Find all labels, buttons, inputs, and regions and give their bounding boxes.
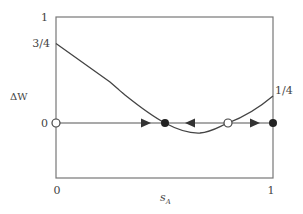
unstable-equilibrium-icon xyxy=(224,119,232,127)
y-tick-0: 0 xyxy=(41,117,48,130)
y-tick-3-4: 3/4 xyxy=(32,37,50,50)
x-tick-0: 0 xyxy=(54,184,61,197)
stable-equilibrium-icon xyxy=(269,119,277,127)
arrow-left-icon xyxy=(185,119,195,128)
stable-equilibrium-icon xyxy=(161,119,169,127)
unstable-equilibrium-icon xyxy=(52,119,60,127)
arrow-right-icon xyxy=(250,119,260,128)
chart: 1 3/4 0 ΔW 0 1 sA 1/4 xyxy=(0,0,303,214)
y-axis-title: ΔW xyxy=(10,91,28,102)
x-axis-title: sA xyxy=(160,191,171,206)
arrow-right-icon xyxy=(141,119,151,128)
y-tick-1: 1 xyxy=(41,11,48,24)
x-tick-1: 1 xyxy=(268,184,275,197)
plot-frame xyxy=(56,17,273,178)
annotation-1-4: 1/4 xyxy=(275,84,293,97)
